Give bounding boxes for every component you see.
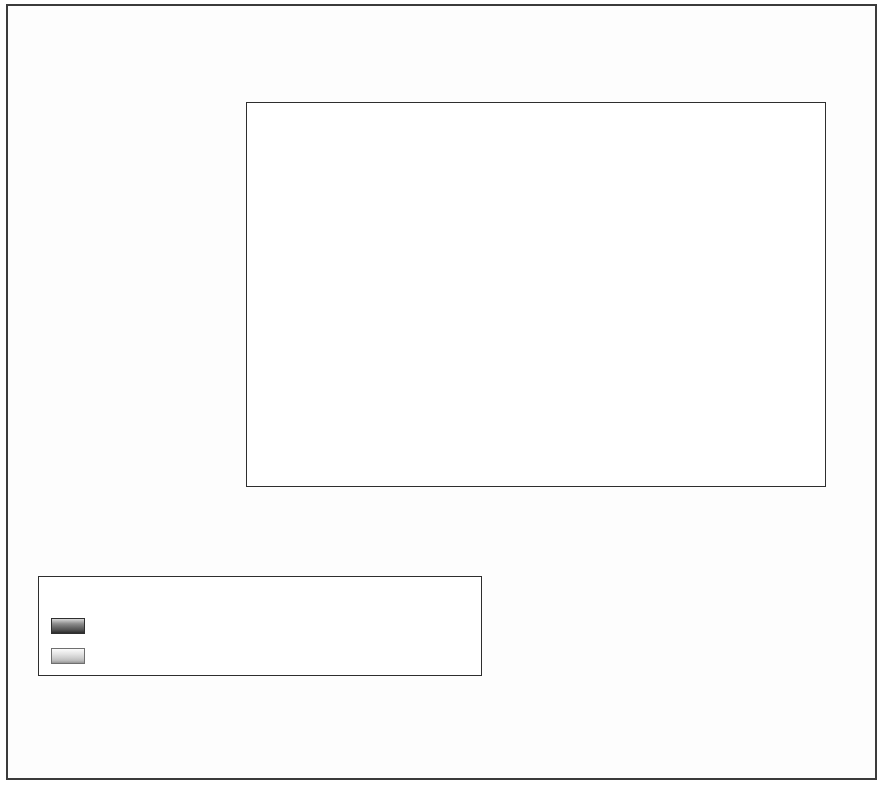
- top-axis-ticks: [246, 88, 826, 102]
- legend-box: [38, 576, 482, 676]
- category-axis-labels: [16, 102, 242, 487]
- bottom-axis-tick-labels: [246, 498, 826, 522]
- legend-swatch-cost-icon: [51, 618, 85, 634]
- figure-page-frame: [6, 4, 877, 780]
- plot-area: [246, 102, 826, 487]
- top-axis-tick-labels: [246, 64, 826, 88]
- legend-swatch-water-icon: [51, 648, 85, 664]
